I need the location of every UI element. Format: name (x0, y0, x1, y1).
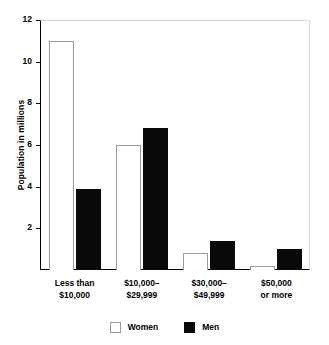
bar-women-group-2 (116, 145, 141, 270)
x-axis-category-label-line: Less than (41, 278, 108, 290)
bar-men-group-2 (143, 128, 168, 270)
y-axis-tick: 12 (0, 20, 40, 21)
bar-chart: Population in millions 12108642 Less tha… (0, 0, 329, 345)
x-axis-category-label-line: $29,999 (108, 290, 175, 302)
y-axis-tick: 8 (0, 103, 40, 104)
bar-men-group-1 (76, 189, 101, 270)
y-axis-tick-label: 12 (23, 14, 32, 25)
y-axis-tick-label: 10 (23, 56, 32, 67)
y-axis-tick: 10 (0, 62, 40, 63)
legend-entry-women[interactable]: Women (110, 322, 159, 333)
legend-label: Men (202, 322, 219, 333)
legend-entry-men[interactable]: Men (184, 322, 219, 333)
white-square-swatch (110, 322, 121, 333)
x-axis-category-label-line: $49,999 (176, 290, 243, 302)
legend-label: Women (128, 322, 159, 333)
x-axis-category-label-3: $30,000–$49,999 (176, 278, 243, 301)
x-axis-category-label-line: $30,000– (176, 278, 243, 290)
chart-legend: WomenMen (0, 322, 329, 333)
bar-women-group-1 (49, 41, 74, 270)
y-axis-tick-label: 8 (27, 97, 32, 108)
y-axis-tick: 2 (0, 228, 40, 229)
bar-women-group-4 (250, 266, 275, 270)
black-square-swatch (184, 322, 195, 333)
y-axis-tick: 4 (0, 187, 40, 188)
x-axis-category-label-4: $50,000or more (243, 278, 310, 301)
x-axis-category-label-line: $10,000– (108, 278, 175, 290)
x-axis-category-label-1: Less than$10,000 (41, 278, 108, 301)
y-axis-tick-label: 4 (27, 181, 32, 192)
x-axis-category-label-line: $50,000 (243, 278, 310, 290)
y-axis-tick-label: 6 (27, 139, 32, 150)
bar-men-group-3 (210, 241, 235, 270)
plot-area (41, 20, 310, 270)
x-axis-category-label-2: $10,000–$29,999 (108, 278, 175, 301)
x-axis-category-label-line: $10,000 (41, 290, 108, 302)
y-axis-tick-label: 2 (27, 222, 32, 233)
x-axis-category-label-line: or more (243, 290, 310, 302)
y-axis-tick: 6 (0, 145, 40, 146)
bar-women-group-3 (183, 253, 208, 270)
bar-men-group-4 (277, 249, 302, 270)
